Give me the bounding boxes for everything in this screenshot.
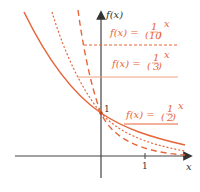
y-axis-label: f(x) [105, 9, 123, 20]
svg-text:f(x) =: f(x) = [111, 58, 141, 69]
svg-text:f(x) =: f(x) = [109, 27, 139, 38]
svg-text:x: x [164, 49, 170, 60]
svg-text:f(x) =: f(x) = [125, 109, 155, 120]
svg-text:): ) [157, 29, 162, 40]
label-tenth: f(x) = ( 1 10 ) x [109, 18, 170, 41]
y-intercept-label: 1 [104, 104, 110, 114]
exponential-graph: 1 x f(x) 1 f(x) = ( 1 10 ) x f(x) = ( 1 … [0, 0, 200, 192]
svg-text:x: x [164, 18, 170, 29]
svg-text:(: ( [161, 111, 166, 122]
svg-text:): ) [171, 111, 176, 122]
x-tick-label: 1 [142, 161, 148, 171]
x-axis-label: x [186, 161, 192, 172]
svg-text:(: ( [147, 60, 152, 71]
svg-text:x: x [178, 100, 184, 111]
label-third: f(x) = ( 1 3 ) x [111, 49, 170, 72]
label-half: f(x) = ( 1 2 ) x [125, 100, 184, 123]
svg-text:): ) [157, 60, 162, 71]
intercept-point [99, 111, 103, 115]
